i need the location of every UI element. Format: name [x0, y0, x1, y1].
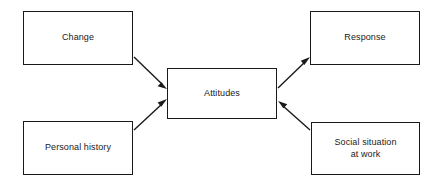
arrow-attitudes-to-response: [278, 57, 310, 88]
node-social-situation[interactable]: Social situation at work: [311, 122, 420, 175]
diagram-canvas: Change Personal history Attitudes Respon…: [0, 0, 443, 184]
arrow-social-situation-to-attitudes: [278, 101, 310, 130]
node-personal-history-label: Personal history: [41, 142, 115, 154]
node-social-situation-label: Social situation at work: [330, 137, 400, 160]
arrow-change-to-attitudes: [134, 57, 167, 89]
node-change-label: Change: [58, 32, 98, 44]
node-personal-history[interactable]: Personal history: [23, 121, 133, 175]
node-attitudes-label: Attitudes: [200, 88, 244, 100]
arrow-personal-history-to-attitudes: [134, 99, 167, 130]
node-attitudes[interactable]: Attitudes: [167, 68, 277, 119]
node-change[interactable]: Change: [23, 11, 133, 65]
node-response-label: Response: [340, 32, 389, 44]
node-response[interactable]: Response: [310, 11, 420, 65]
